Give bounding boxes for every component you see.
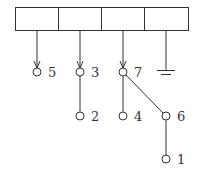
node-label-3: 3 xyxy=(91,65,99,80)
edge-7-6 xyxy=(126,75,163,113)
ground-icon xyxy=(157,71,175,75)
node-label-2: 2 xyxy=(91,109,99,124)
node-4 xyxy=(119,112,127,120)
node-label-5: 5 xyxy=(48,65,56,80)
node-1 xyxy=(162,155,170,163)
node-label-1: 1 xyxy=(177,152,185,167)
node-5 xyxy=(33,68,41,76)
node-label-4: 4 xyxy=(134,109,142,124)
node-label-7: 7 xyxy=(134,65,142,80)
node-7 xyxy=(119,68,127,76)
register-box xyxy=(16,8,189,31)
tree-nodes xyxy=(33,68,170,163)
tree-diagram: 5 3 7 2 4 6 1 xyxy=(0,0,200,172)
node-3 xyxy=(76,68,84,76)
node-2 xyxy=(76,112,84,120)
node-label-6: 6 xyxy=(177,109,185,124)
pointer-arrows xyxy=(34,30,166,70)
node-6 xyxy=(162,112,170,120)
